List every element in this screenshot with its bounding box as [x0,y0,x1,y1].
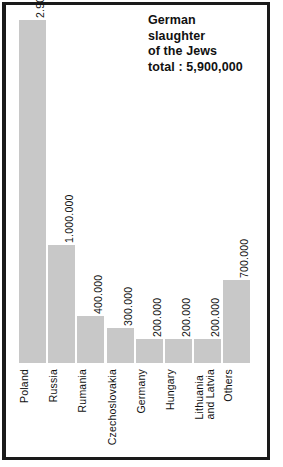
bar [136,339,163,363]
bar [223,280,250,363]
bar [165,339,192,363]
frame-border-right [267,2,270,460]
bar-category-label: Rumania [77,369,104,380]
bar-value-label: 400.000 [92,274,104,316]
bar-category-label: Others [223,369,250,380]
bar-category-label: Germany [136,369,163,380]
bar [107,328,134,363]
bar-category-label: Russia [48,369,75,380]
bar-category-label: Lithuaniaand Latvia [194,369,221,391]
bar-category-label: Poland [19,369,46,380]
bar-category-label: Hungary [165,369,192,380]
bar-value-label: 300.000 [122,286,134,328]
bar-value-label: 200.000 [151,298,163,340]
plot-area: 2.900.000Poland1.000.000Russia400.000Rum… [6,5,267,457]
bar [48,245,75,363]
bar-category-label: Czechoslovakia [107,369,134,380]
bar-value-label: 200.000 [180,298,192,340]
bar [19,20,46,363]
bar [77,316,104,363]
chart-figure: German slaughter of the Jews total : 5,9… [0,0,283,467]
bar-value-label: 1.000.000 [63,194,75,246]
bar [194,339,221,363]
bar-value-label: 2.900.000 [34,0,46,21]
bar-value-label: 700.000 [238,239,250,281]
frame-border-bottom [2,457,270,460]
bar-value-label: 200.000 [209,298,221,340]
